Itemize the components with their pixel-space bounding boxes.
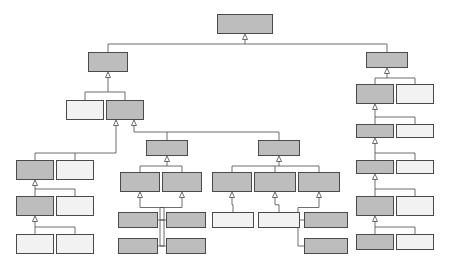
class-box-entity[interactable]	[217, 14, 273, 34]
class-box-phase-mixin[interactable]	[304, 212, 348, 228]
class-box-relator[interactable]	[396, 196, 434, 216]
class-box-abstract-individual[interactable]	[396, 84, 434, 104]
class-box-endurant-type[interactable]	[106, 100, 144, 120]
class-box-anti-rigid-nonsortal[interactable]	[298, 172, 340, 192]
class-box-type[interactable]	[88, 52, 128, 72]
generalization-arrowhead	[373, 138, 378, 144]
class-box-moment[interactable]	[356, 160, 394, 174]
generalization-arrowhead	[273, 192, 278, 198]
class-box-quality[interactable]	[356, 234, 394, 250]
class-box-substantial[interactable]	[396, 160, 434, 174]
class-box-substantial-type[interactable]	[56, 160, 94, 180]
class-box-role[interactable]	[166, 238, 206, 254]
generalization-arrowhead	[106, 72, 111, 78]
class-box-rigid-nonsortal[interactable]	[212, 172, 252, 192]
class-box-individual[interactable]	[366, 52, 408, 68]
class-box-nonsortal[interactable]	[258, 140, 300, 156]
generalization-arrowhead	[373, 216, 378, 222]
class-box-relator-type[interactable]	[56, 196, 94, 216]
class-box-subkind[interactable]	[118, 238, 158, 254]
generalization-arrowhead	[180, 192, 185, 198]
class-box-quality-type[interactable]	[16, 234, 54, 254]
generalization-arrowhead	[385, 68, 390, 74]
generalization-arrowhead	[138, 192, 143, 198]
class-box-mixin[interactable]	[258, 212, 300, 228]
generalization-arrowhead	[373, 174, 378, 180]
generalization-arrowhead	[317, 192, 322, 198]
class-box-concrete-individual[interactable]	[356, 84, 394, 104]
class-box-mode-type[interactable]	[56, 234, 94, 254]
class-box-moment-type[interactable]	[16, 160, 54, 180]
class-box-role-mixin[interactable]	[304, 238, 348, 254]
class-box-intrinsic-moment[interactable]	[356, 196, 394, 216]
generalization-arrowhead	[33, 180, 38, 186]
class-box-mode[interactable]	[396, 234, 434, 250]
generalization-arrowhead	[114, 120, 119, 126]
class-box-anti-rigid-sortal[interactable]	[162, 172, 202, 192]
class-box-endurant[interactable]	[356, 124, 394, 138]
class-box-sortal[interactable]	[146, 140, 188, 156]
class-box-intrinsic-moment-type[interactable]	[16, 196, 54, 216]
generalization-arrowhead	[373, 104, 378, 110]
class-box-perdurant[interactable]	[396, 124, 434, 138]
class-box-rigid-sortal[interactable]	[120, 172, 160, 192]
class-box-category[interactable]	[212, 212, 254, 228]
class-box-kind[interactable]	[118, 212, 158, 228]
class-box-perdurant-type[interactable]	[66, 100, 104, 120]
generalization-arrowhead	[165, 156, 170, 162]
generalization-arrowhead	[33, 216, 38, 222]
generalization-arrowhead	[230, 192, 235, 198]
class-box-phase[interactable]	[166, 212, 206, 228]
generalization-arrowhead	[132, 120, 137, 126]
generalization-arrowhead	[277, 156, 282, 162]
class-box-semi-rigid-nonsortal[interactable]	[254, 172, 296, 192]
generalization-arrowhead	[243, 34, 248, 40]
diagram-canvas	[0, 0, 472, 271]
